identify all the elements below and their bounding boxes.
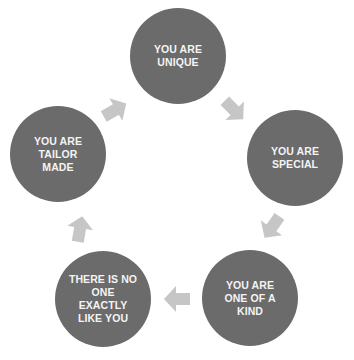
arrow-up-icon [64,213,96,245]
arrow-down-left-icon [256,211,288,243]
node-you-are-one-of-a-kind: YOU ARE ONE OF A KIND [202,250,298,346]
arrow-down-right-icon [218,94,250,126]
cycle-diagram: YOU ARE UNIQUE YOU ARE SPECIAL YOU ARE O… [0,0,354,360]
arrow-up-right-icon [99,94,131,126]
node-label: YOU ARE SPECIAL [257,145,333,171]
arrow-left-icon [161,283,193,315]
node-label: YOU ARE ONE OF A KIND [212,279,288,318]
node-you-are-unique: YOU ARE UNIQUE [130,8,226,104]
node-label: YOU ARE TAILOR MADE [20,135,96,174]
node-there-is-no-one-exactly-like-you: THERE IS NO ONE EXACTLY LIKE YOU [55,251,151,347]
node-label: THERE IS NO ONE EXACTLY LIKE YOU [65,273,141,325]
node-you-are-special: YOU ARE SPECIAL [247,110,343,206]
node-you-are-tailor-made: YOU ARE TAILOR MADE [10,106,106,202]
node-label: YOU ARE UNIQUE [140,43,216,69]
